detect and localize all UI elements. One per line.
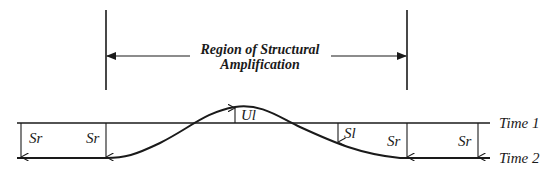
ul-label: Ul (241, 107, 256, 123)
sr-label-left: Sr (86, 130, 100, 146)
sr-label-far-left: Sr (29, 130, 43, 146)
sl-label: Sl (344, 125, 356, 141)
sr-label-far-right: Sr (458, 133, 472, 149)
region-label-line1: Region of Structural (199, 42, 319, 57)
time2-label: Time 2 (499, 150, 540, 166)
sr-label-right: Sr (387, 133, 401, 149)
structural-amplification-diagram: Region of Structural Amplification Sr Sr… (0, 0, 553, 176)
region-label-line2: Amplification (219, 57, 300, 72)
time1-label: Time 1 (499, 115, 539, 131)
